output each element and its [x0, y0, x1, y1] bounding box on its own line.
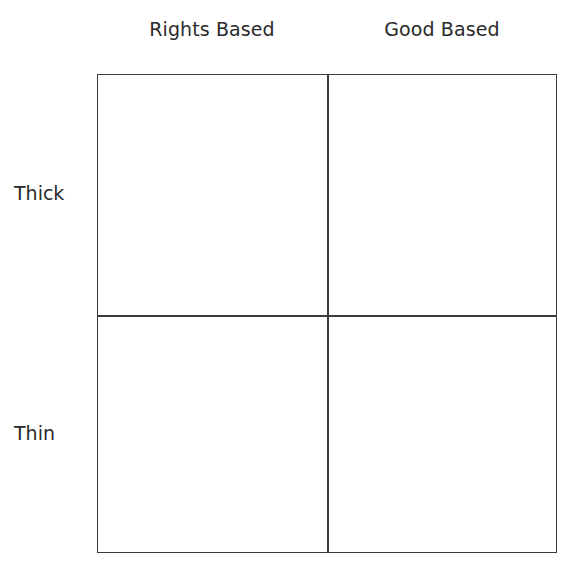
- row-label-thick: Thick: [14, 182, 64, 204]
- cell-thin-good-based: [329, 317, 556, 551]
- horizontal-divider: [98, 315, 556, 317]
- vertical-divider: [327, 75, 329, 552]
- cell-thin-rights-based: [98, 317, 327, 551]
- column-label-good-based: Good Based: [327, 18, 557, 40]
- row-label-thin: Thin: [14, 422, 55, 444]
- cell-thick-good-based: [329, 75, 556, 315]
- cell-thick-rights-based: [98, 75, 327, 315]
- column-label-rights-based: Rights Based: [97, 18, 327, 40]
- matrix-grid: [97, 74, 557, 553]
